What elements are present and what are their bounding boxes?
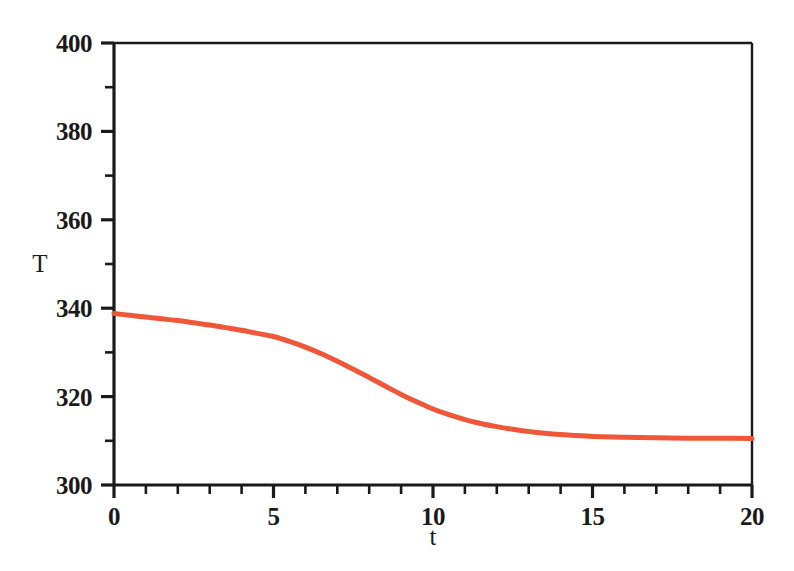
x-axis-title: t — [430, 523, 437, 550]
y-tick-label-360: 360 — [56, 207, 92, 234]
y-tick-label-400: 400 — [56, 30, 92, 57]
plot-svg: 300320340360380400 05101520 T t — [0, 0, 794, 571]
y-tick-label-340: 340 — [56, 295, 92, 322]
y-tick-label-380: 380 — [56, 118, 92, 145]
y-tick-label-320: 320 — [56, 384, 92, 411]
y-axis-title: T — [32, 250, 47, 277]
x-tick-label-15: 15 — [581, 503, 605, 530]
y-tick-label-300: 300 — [56, 472, 92, 499]
chart-figure: 300320340360380400 05101520 T t — [0, 0, 794, 571]
x-tick-label-0: 0 — [108, 503, 120, 530]
x-tick-label-20: 20 — [740, 503, 764, 530]
x-tick-label-5: 5 — [268, 503, 280, 530]
